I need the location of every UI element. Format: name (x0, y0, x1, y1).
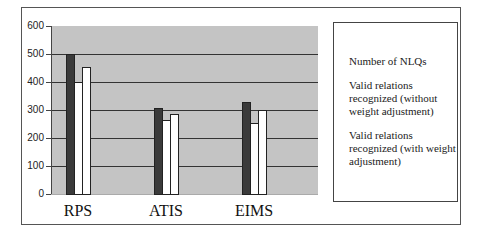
gridline (52, 110, 318, 111)
x-category-label: ATIS (136, 202, 196, 220)
x-axis (51, 194, 318, 195)
gridline (52, 82, 318, 83)
y-tick-label: 500 (14, 49, 44, 59)
y-tick-label: 100 (14, 161, 44, 171)
y-tick-label: 200 (14, 133, 44, 143)
gridline (52, 138, 318, 139)
plot-area (52, 26, 318, 194)
legend-item-with-weight: Valid relations recognized (with weight … (349, 129, 457, 168)
bar-rps-series-2 (82, 67, 91, 195)
bar-eims-series-2 (258, 110, 267, 195)
gridline (52, 166, 318, 167)
y-axis (51, 26, 52, 195)
y-tick (46, 166, 51, 167)
gridline (52, 54, 318, 55)
x-category-label: RPS (48, 202, 108, 220)
y-tick-label: 300 (14, 105, 44, 115)
y-tick (46, 26, 51, 27)
y-tick (46, 110, 51, 111)
y-tick (46, 82, 51, 83)
y-tick (46, 194, 51, 195)
bar-atis-series-2 (170, 114, 179, 195)
y-tick-label: 600 (14, 21, 44, 31)
legend-item-nlqs: Number of NLQs (349, 55, 457, 68)
x-category-label: EIMS (224, 202, 284, 220)
y-tick (46, 138, 51, 139)
y-tick-label: 400 (14, 77, 44, 87)
legend-item-without-weight: Valid relations recognized (without weig… (349, 79, 457, 118)
y-tick (46, 54, 51, 55)
legend: Number of NLQs Valid relations recognize… (333, 22, 458, 202)
y-tick-label: 0 (14, 189, 44, 199)
